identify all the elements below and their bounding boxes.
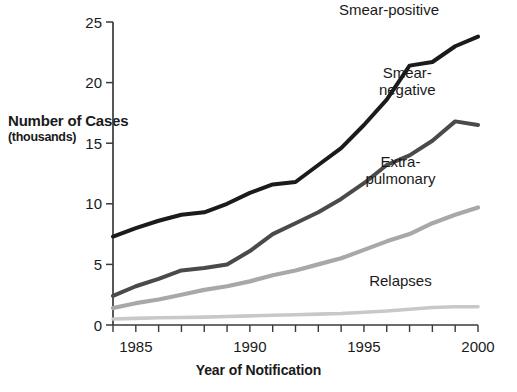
y-tick-label: 0 xyxy=(94,317,102,334)
x-tick-label: 1985 xyxy=(119,338,152,355)
series-label-extra-pulmonary: Extra-pulmonary xyxy=(365,153,436,187)
data-line-relapses xyxy=(113,307,478,319)
chart-figure: Number of Cases (thousands) Year of Noti… xyxy=(0,0,517,392)
y-tick-label: 20 xyxy=(85,74,102,91)
plot-generated-layer: 05101520251985199019952000Smear-positive… xyxy=(85,1,494,355)
series-label-smear-positive: Smear-positive xyxy=(339,1,439,18)
series-label-smear-negative: Smear-negative xyxy=(379,64,436,98)
y-tick-label: 15 xyxy=(85,135,102,152)
series-label-relapses: Relapses xyxy=(369,272,432,289)
y-tick-label: 25 xyxy=(85,14,102,31)
y-tick-label: 5 xyxy=(94,256,102,273)
x-tick-label: 2000 xyxy=(461,338,494,355)
x-tick-label: 1995 xyxy=(347,338,380,355)
x-tick-label: 1990 xyxy=(233,338,266,355)
y-tick-label: 10 xyxy=(85,195,102,212)
line-chart-plot: 05101520251985199019952000Smear-positive… xyxy=(0,0,517,392)
